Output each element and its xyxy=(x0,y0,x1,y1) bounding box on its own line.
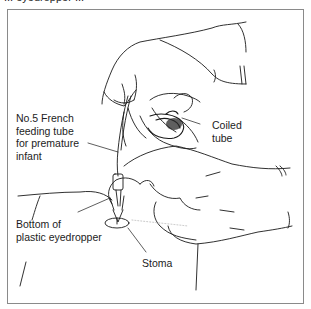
feeding-tube-label-line-4: infant xyxy=(16,150,79,163)
eyedropper-label-line-2: plastic eyedropper xyxy=(16,231,102,244)
coiled-tube-label-line-2: tube xyxy=(212,132,242,145)
feeding-tube-label-line-3: for premature xyxy=(16,137,79,150)
feeding-tube-label-line-1: No.5 French xyxy=(16,112,79,125)
coiled-tube-label: Coiled tube xyxy=(212,119,242,144)
feeding-tube-label: No.5 French feeding tube for premature i… xyxy=(16,112,79,162)
eyedropper-label-line-1: Bottom of xyxy=(16,218,102,231)
coiled-tube-label-line-1: Coiled xyxy=(212,119,242,132)
stoma-label: Stoma xyxy=(142,257,172,270)
lower-hand-drawing xyxy=(109,146,292,290)
feeding-tube-label-line-2: feeding tube xyxy=(16,125,79,138)
eyedropper-label: Bottom of plastic eyedropper xyxy=(16,218,102,243)
